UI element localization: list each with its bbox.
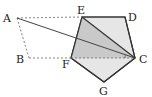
label-a: A: [2, 12, 12, 25]
label-c: C: [139, 53, 147, 66]
dashed-ae: [17, 17, 82, 18]
label-b: B: [16, 53, 24, 66]
label-g: G: [99, 85, 108, 97]
label-f: F: [62, 58, 70, 71]
label-d: D: [128, 11, 137, 24]
dashed-ab: [17, 18, 29, 58]
label-e: E: [77, 4, 85, 17]
geometry-diagram: A B C D E F G: [0, 0, 152, 97]
